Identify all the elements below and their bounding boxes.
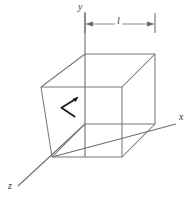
cube-wireframe: [41, 54, 155, 157]
cube-edge-depth-bottom-right: [122, 124, 155, 157]
coordinate-axes: [18, 12, 176, 186]
x-axis-label: x: [179, 112, 183, 122]
cube-edge-depth-top-left: [41, 54, 85, 87]
cube-edge-front-left: [41, 87, 52, 157]
z-axis-label: z: [8, 181, 12, 191]
cube-coordinate-figure: y x z l: [0, 0, 194, 200]
dimension-arrow-left-icon: [86, 21, 94, 26]
face-arrow-marker: [62, 97, 79, 117]
figure-canvas: [0, 0, 194, 200]
y-axis-label: y: [78, 2, 82, 12]
edge-length-label: l: [115, 16, 122, 26]
cube-edge-depth-top-right: [122, 54, 155, 87]
x-axis-line: [52, 124, 176, 157]
arrow-marker-stroke: [62, 99, 77, 117]
dimension-arrow-right-icon: [147, 21, 155, 26]
